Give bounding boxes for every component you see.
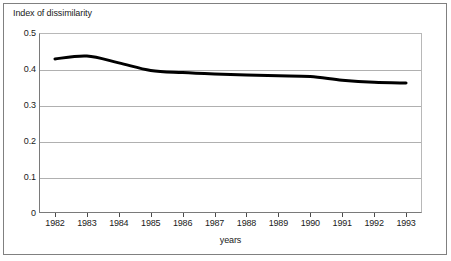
x-axis-tick-mark (374, 213, 375, 217)
y-axis-tick-label: 0.4 (2, 64, 36, 74)
x-axis-tick-mark (151, 213, 152, 217)
x-axis-tick-label: 1990 (301, 218, 320, 228)
y-axis-tick-label: 0.1 (2, 172, 36, 182)
x-axis-tick-label: 1987 (205, 218, 224, 228)
x-axis-tick-label: 1984 (109, 218, 128, 228)
x-axis-title: years (39, 235, 422, 245)
x-axis-tick-mark (246, 213, 247, 217)
x-axis-tick-label: 1983 (77, 218, 96, 228)
x-axis-tick-mark (87, 213, 88, 217)
y-axis-tick-label: 0.3 (2, 100, 36, 110)
x-axis-tick-mark (278, 213, 279, 217)
x-axis-tick-mark (406, 213, 407, 217)
x-axis-tick-mark (215, 213, 216, 217)
x-axis-tick-label: 1993 (396, 218, 415, 228)
x-axis-tick-mark (119, 213, 120, 217)
y-axis-tick-labels: 00.10.20.30.40.5 (0, 0, 36, 261)
x-axis-tick-mark (183, 213, 184, 217)
x-axis-tick-label: 1986 (173, 218, 192, 228)
x-axis-tick-mark (342, 213, 343, 217)
x-axis-tick-label: 1985 (141, 218, 160, 228)
chart-figure: Index of dissimilarity 00.10.20.30.40.5 … (0, 0, 451, 261)
x-axis-tick-label: 1989 (269, 218, 288, 228)
x-axis-tick-label: 1988 (237, 218, 256, 228)
series-path (55, 56, 406, 83)
y-axis-tick-label: 0.5 (2, 28, 36, 38)
x-axis-tick-label: 1991 (333, 218, 352, 228)
x-axis-tick-label: 1992 (365, 218, 384, 228)
x-axis-tick-mark (55, 213, 56, 217)
y-axis-tick-label: 0.2 (2, 136, 36, 146)
x-axis-tick-mark (310, 213, 311, 217)
y-axis-tick-label: 0 (2, 208, 36, 218)
data-series-line (39, 33, 422, 213)
x-axis-tick-label: 1982 (45, 218, 64, 228)
x-axis-tick-labels: 1982198319841985198619871988198919901991… (39, 218, 422, 232)
